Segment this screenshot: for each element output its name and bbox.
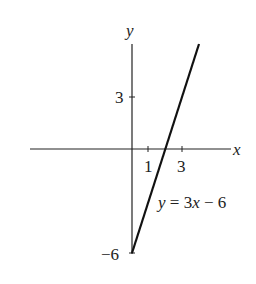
y-tick-label-3: 3 <box>115 88 124 107</box>
equation-label: y = 3x − 6 <box>156 193 226 212</box>
y-axis-label: y <box>124 21 134 40</box>
graph: y x 1 3 3 −6 y = 3x − 6 <box>0 0 256 284</box>
x-axis-label: x <box>232 140 241 159</box>
y-tick-label-m6: −6 <box>101 245 119 264</box>
x-tick-label-1: 1 <box>144 157 153 176</box>
x-tick-label-3: 3 <box>177 157 186 176</box>
